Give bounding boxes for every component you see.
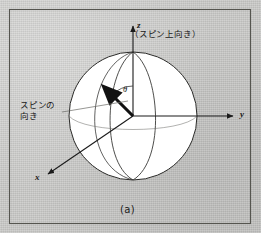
spin-direction-label-line1: スピンの [20, 101, 55, 111]
x-axis-label: x [35, 172, 40, 182]
figure-caption: (a) [120, 204, 135, 215]
spin-direction-label-line2: 向き [20, 112, 38, 122]
z-axis-note-spin-up: （スピン上向き） [130, 30, 200, 40]
figure-container: z （スピン上向き） y x θ スピンの 向き (a) [0, 0, 261, 233]
y-axis-label: y [240, 109, 244, 119]
theta-angle-label: θ [123, 85, 127, 95]
